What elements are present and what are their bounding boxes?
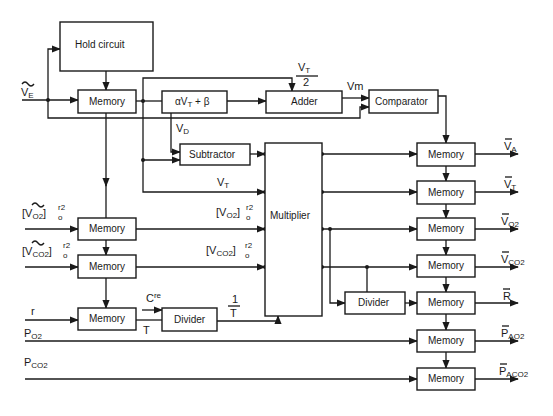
- svg-text:VT: VT: [504, 178, 516, 192]
- signal-vd: VD: [176, 122, 189, 136]
- memory-r-block: Memory: [78, 308, 136, 330]
- svg-text:Divider: Divider: [174, 314, 206, 325]
- svg-text:Memory: Memory: [428, 223, 464, 234]
- svg-text:o: o: [245, 251, 250, 260]
- svg-text:VE: VE: [21, 86, 34, 100]
- svg-text:Memory: Memory: [89, 313, 125, 324]
- svg-text:r2: r2: [246, 203, 254, 212]
- adder-block: Adder: [266, 91, 342, 113]
- svg-text:R: R: [503, 290, 511, 302]
- divider-right-block: Divider: [345, 292, 405, 314]
- memory-vt-block: Memory: [417, 181, 475, 204]
- svg-text:Memory: Memory: [89, 96, 125, 107]
- svg-text:o: o: [58, 213, 63, 222]
- svg-text:Memory: Memory: [89, 223, 125, 234]
- signal-cre: Cre: [146, 291, 162, 304]
- input-vco2-label: [VCO2] r2 o: [22, 241, 71, 260]
- svg-text:Memory: Memory: [89, 261, 125, 272]
- memory-out-vo2-block: Memory: [417, 218, 475, 240]
- signal-vt-half: VT 2: [296, 61, 318, 88]
- svg-text:Memory: Memory: [428, 335, 464, 346]
- svg-text:T: T: [230, 307, 237, 319]
- output-paco2-label: PACO2: [499, 364, 529, 379]
- memory-out-paco2-block: Memory: [417, 368, 475, 390]
- memory-out-r-block: Memory: [417, 292, 475, 314]
- svg-text:r2: r2: [58, 203, 66, 212]
- svg-text:PACO2: PACO2: [499, 365, 529, 379]
- signal-inv-t: 1 T: [228, 293, 240, 319]
- alpha-beta-block: αVT + β: [162, 91, 227, 113]
- output-vco2-label: VCO2: [501, 252, 525, 267]
- input-r-label: r: [31, 305, 35, 317]
- svg-text:r2: r2: [63, 241, 71, 250]
- svg-text:[VO2]: [VO2]: [216, 206, 240, 220]
- svg-text:r2: r2: [245, 241, 253, 250]
- output-r-label: R: [503, 289, 511, 302]
- input-vo2-label: [VO2] r2 o: [22, 203, 66, 222]
- svg-text:2: 2: [303, 76, 309, 88]
- svg-text:Memory: Memory: [428, 187, 464, 198]
- svg-text:Memory: Memory: [428, 297, 464, 308]
- svg-text:Adder: Adder: [291, 96, 318, 107]
- svg-text:[VO2]: [VO2]: [22, 207, 46, 221]
- input-ve-label: VE: [21, 82, 34, 100]
- svg-text:VCO2: VCO2: [501, 253, 525, 267]
- subtractor-block: Subtractor: [180, 144, 250, 165]
- svg-text:Divider: Divider: [358, 297, 390, 308]
- divider-left-block: Divider: [162, 308, 217, 331]
- output-va-label: VA: [504, 139, 517, 154]
- svg-text:Hold circuit: Hold circuit: [75, 39, 125, 50]
- multiplier-block: Multiplier: [265, 143, 322, 316]
- block-diagram: Hold circuit Memory αVT + β Adder Compar…: [0, 0, 553, 416]
- output-vt-label: VT: [504, 177, 516, 192]
- signal-mult-vco2: [VCO2] r2 o: [206, 241, 253, 260]
- svg-text:Memory: Memory: [428, 260, 464, 271]
- svg-text:Multiplier: Multiplier: [270, 210, 311, 221]
- comparator-block: Comparator: [369, 90, 438, 113]
- svg-text:o: o: [63, 251, 68, 260]
- hold-circuit-block: Hold circuit: [60, 22, 153, 71]
- svg-text:o: o: [246, 213, 251, 222]
- memory-out-pao2-block: Memory: [417, 330, 475, 352]
- signal-vm: Vm: [347, 80, 364, 92]
- svg-text:VA: VA: [504, 140, 517, 154]
- svg-text:[VCO2]: [VCO2]: [206, 244, 236, 258]
- svg-text:Comparator: Comparator: [375, 96, 428, 107]
- input-pco2-label: PCO2: [24, 356, 48, 370]
- memory-main-block: Memory: [78, 90, 136, 113]
- svg-text:Memory: Memory: [428, 373, 464, 384]
- memory-out-vco2-block: Memory: [417, 255, 475, 277]
- memory-vco2-block: Memory: [78, 255, 136, 278]
- svg-text:PAO2: PAO2: [501, 327, 525, 341]
- output-vo2-label: VO2: [501, 214, 520, 229]
- svg-text:1: 1: [232, 293, 238, 305]
- svg-text:VT: VT: [298, 61, 310, 75]
- signal-vt: VT: [217, 176, 229, 190]
- svg-text:VO2: VO2: [501, 215, 520, 229]
- signal-mult-vo2: [VO2] r2 o: [216, 203, 254, 222]
- input-po2-label: PO2: [24, 327, 43, 341]
- memory-vo2-block: Memory: [78, 218, 136, 240]
- svg-text:Memory: Memory: [428, 149, 464, 160]
- svg-text:[VCO2]: [VCO2]: [22, 245, 52, 259]
- output-pao2-label: PAO2: [501, 326, 525, 341]
- signal-t: T: [143, 324, 150, 336]
- svg-text:Subtractor: Subtractor: [189, 149, 236, 160]
- memory-va-block: Memory: [417, 143, 475, 166]
